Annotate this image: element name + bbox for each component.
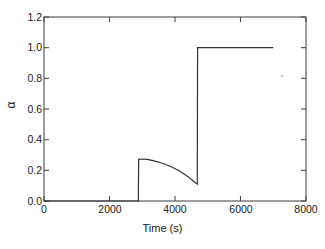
y-tick-label-1-0: 1.0 xyxy=(8,41,42,53)
x-tick-label-4000: 4000 xyxy=(150,203,200,215)
y-tick-label-1-2: 1.2 xyxy=(8,11,42,23)
y-axis-ticks xyxy=(44,17,306,201)
y-tick-label-0-4: 0.4 xyxy=(8,133,42,145)
y-tick-label-0-0: 0.0 xyxy=(8,195,42,207)
plot-frame xyxy=(44,17,306,201)
y-axis-title-wrapper: α xyxy=(4,85,18,125)
y-axis-title: α xyxy=(4,85,18,125)
y-tick-label-0-8: 0.8 xyxy=(8,72,42,84)
chart-figure: 0 2000 4000 6000 8000 0.0 0.2 0.4 0.6 0.… xyxy=(0,0,325,249)
x-tick-label-6000: 6000 xyxy=(216,203,266,215)
x-tick-label-2000: 2000 xyxy=(85,203,135,215)
dust-speck-artifact xyxy=(281,75,283,77)
x-tick-label-8000: 8000 xyxy=(281,203,325,215)
x-axis-ticks xyxy=(44,17,306,201)
data-series-alpha xyxy=(44,48,273,201)
x-axis-title: Time (s) xyxy=(0,222,325,234)
y-tick-label-0-2: 0.2 xyxy=(8,164,42,176)
